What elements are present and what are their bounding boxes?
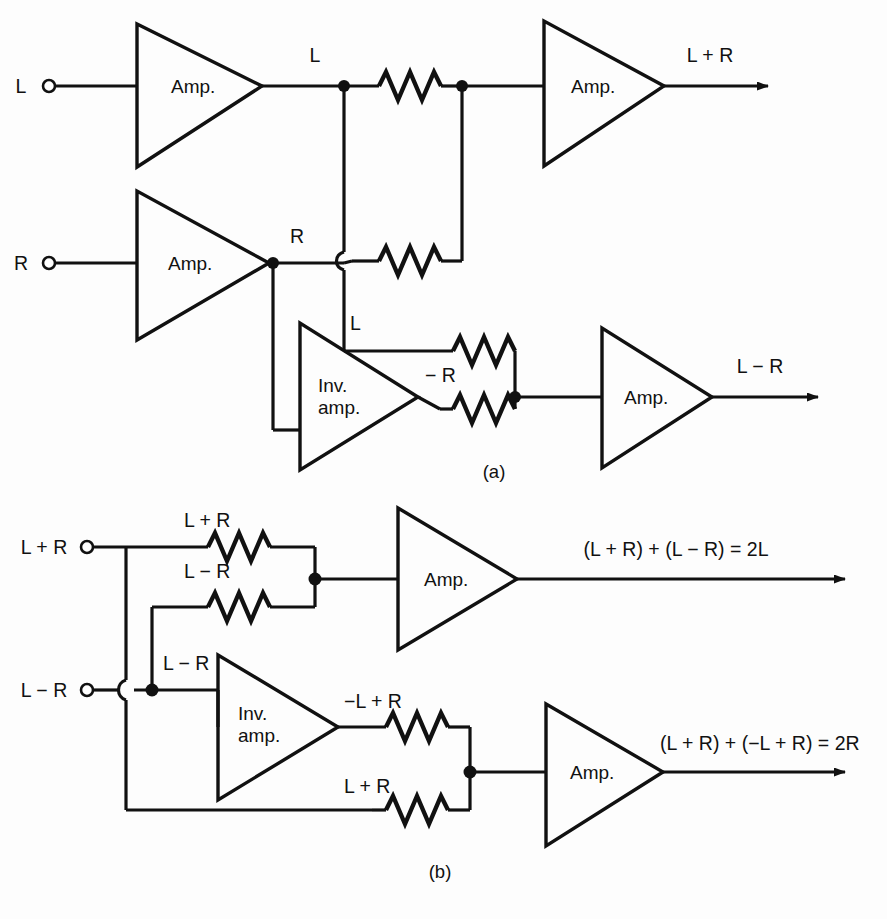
amp-difference-label: Amp. <box>624 387 668 408</box>
figure-root: L Amp. L <box>0 0 887 919</box>
output-difference-label: L − R <box>737 355 783 377</box>
node-l-to-diff-label: L <box>350 312 361 334</box>
inv-amp-a-label-line2: amp. <box>318 397 360 418</box>
resistor-r-sum <box>352 247 441 275</box>
resistor-b-diff-top <box>152 579 315 621</box>
node-diff-mid-label: L − R <box>163 652 209 674</box>
resistor-l-sum <box>344 72 462 100</box>
input-l-plus-r-label: L + R <box>21 536 67 558</box>
inv-amp-b-label-line2: amp. <box>238 725 280 746</box>
panel-a: L Amp. L <box>14 21 818 482</box>
resistor-b-inverted <box>338 713 470 772</box>
inv-amp-b-label-line1: Inv. <box>238 703 267 724</box>
amp-r-input-label: Amp. <box>168 253 212 274</box>
panel-b-letter: (b) <box>429 861 452 882</box>
panel-b: L + R L + R L − R <box>21 508 860 882</box>
circuit-schematic-svg: L Amp. L <box>0 0 887 919</box>
amp-right-channel-label: Amp. <box>570 762 614 783</box>
wire-hop-lplusr-over-lminusr <box>119 680 127 700</box>
inv-amp-a-label-line1: Inv. <box>318 375 347 396</box>
wire-r-to-res <box>344 261 352 263</box>
input-l-terminal[interactable] <box>43 80 137 92</box>
resistor-b-sum-top <box>152 533 315 579</box>
node-diff-top-label: L − R <box>184 560 230 582</box>
input-l-plus-r-terminal[interactable] <box>81 541 152 553</box>
panel-a-letter: (a) <box>483 461 506 482</box>
input-r-label: R <box>14 252 28 274</box>
input-l-label: L <box>16 75 27 97</box>
output-sum-label: L + R <box>687 44 733 66</box>
input-l-minus-r-label: L − R <box>21 679 67 701</box>
amp-sum-label: Amp. <box>571 76 615 97</box>
junction-dot-lminusr <box>146 684 159 697</box>
node-sum-top-label: L + R <box>184 509 230 531</box>
resistor-minusr-diff <box>418 395 515 423</box>
output-right-label: (L + R) + (−L + R) = 2R <box>660 732 860 754</box>
input-r-terminal[interactable] <box>43 257 137 269</box>
amp-l-input-label: Amp. <box>171 76 215 97</box>
wire-hop-l-over-r <box>337 252 345 270</box>
amp-left-channel-label: Amp. <box>424 569 468 590</box>
node-l-label: L <box>310 44 321 66</box>
node-r-label: R <box>290 225 304 247</box>
input-l-minus-r-terminal[interactable] <box>81 684 118 696</box>
node-minus-r-label: − R <box>425 364 456 386</box>
node-sum-bottom-label: L + R <box>344 775 390 797</box>
output-left-label: (L + R) + (L − R) = 2L <box>584 538 769 560</box>
